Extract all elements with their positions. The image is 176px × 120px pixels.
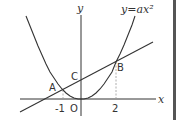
x-axis-label: x [158,93,165,106]
tick-2: 2 [112,103,118,114]
point-b-label: B [117,62,124,73]
point-a-label: A [49,82,56,93]
point-c-label: C [71,71,78,82]
line-ab [20,42,153,112]
tick-neg1: -1 [55,103,65,114]
edge-bar [173,0,176,120]
equation-label: y=ax² [120,3,154,16]
y-axis-label: y [76,2,84,15]
coordinate-diagram: y x y=ax² O -1 2 A B C [0,0,176,120]
origin-label: O [70,103,78,114]
